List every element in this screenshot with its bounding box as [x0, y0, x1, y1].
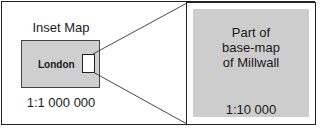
caption-line: Part of [193, 25, 309, 40]
caption-line: base-map [193, 40, 309, 55]
detail-map-caption: Part of base-map of Millwall [193, 25, 309, 70]
detail-map-frame: Part of base-map of Millwall 1:10 000 [186, 2, 316, 125]
connector-line-bottom [93, 72, 187, 124]
connector-line-top [93, 3, 187, 54]
caption-line: of Millwall [193, 55, 309, 70]
millwall-base-map: Part of base-map of Millwall 1:10 000 [193, 9, 309, 117]
detail-map-scale: 1:10 000 [193, 102, 309, 117]
